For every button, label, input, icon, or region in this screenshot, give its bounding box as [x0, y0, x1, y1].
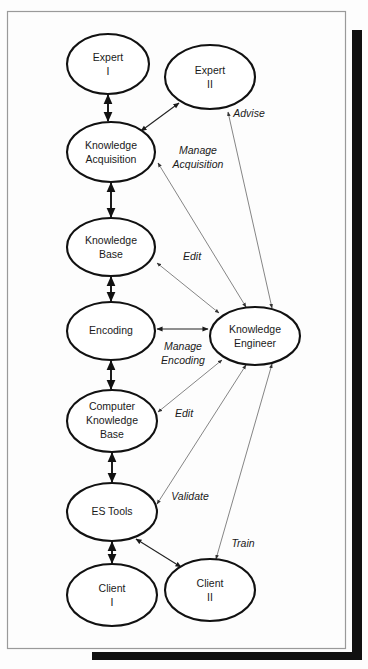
edge-knowledge-engineer-es-tools [157, 365, 246, 504]
figure-page: Expert I Expert II Knowledge Acquisition… [0, 0, 368, 669]
edge-knowledge-engineer-knowledge-acquisition [158, 163, 246, 307]
edge-label-manage-encoding-line2: Encoding [161, 354, 205, 366]
node-expert-1-label-line1: Expert [93, 51, 123, 63]
node-expert-2-label-line1: Expert [195, 64, 225, 76]
node-computer-knowledge-base-label-line1: Computer [89, 400, 136, 412]
expert-system-knowledge-engineering-diagram: Expert I Expert II Knowledge Acquisition… [0, 0, 368, 669]
node-knowledge-acquisition[interactable]: Knowledge Acquisition [67, 122, 155, 182]
edge-knowledge-engineer-expert2 [228, 112, 272, 308]
node-client-1-label-line2: I [111, 596, 114, 608]
node-knowledge-base[interactable]: Knowledge Base [67, 218, 155, 276]
node-computer-knowledge-base-label-line2: Knowledge [86, 414, 138, 426]
node-client-1-label-line1: Client [99, 582, 126, 594]
node-knowledge-engineer[interactable]: Knowledge Engineer [210, 307, 300, 365]
edge-label-validate: Validate [171, 490, 209, 502]
edge-knowledge-engineer-client2 [216, 364, 272, 559]
node-encoding[interactable]: Encoding [67, 302, 155, 360]
node-client-2[interactable]: Client II [165, 559, 255, 621]
node-knowledge-base-label-line2: Base [99, 248, 123, 260]
edge-knowledge-acquisition-expert2 [141, 103, 179, 131]
node-computer-knowledge-base[interactable]: Computer Knowledge Base [67, 390, 157, 452]
node-knowledge-engineer-label-line1: Knowledge [229, 323, 281, 335]
node-expert-2-label-line2: II [207, 78, 213, 90]
frame-shadow-right [352, 30, 362, 660]
node-computer-knowledge-base-label-line3: Base [100, 428, 124, 440]
edge-knowledge-engineer-knowledge-base [157, 263, 219, 313]
node-client-1[interactable]: Client I [67, 564, 157, 626]
node-client-2-label-line1: Client [197, 577, 224, 589]
node-expert-2[interactable]: Expert II [165, 45, 255, 109]
edge-label-manage-acquisition-line1: Manage [179, 144, 217, 156]
edge-label-edit-computer-knowledge-base: Edit [175, 407, 194, 419]
edge-label-train: Train [231, 537, 254, 549]
frame-shadow-bottom [92, 652, 362, 660]
edge-label-manage-acquisition-line2: Acquisition [172, 158, 224, 170]
node-encoding-label-line1: Encoding [89, 324, 133, 336]
node-knowledge-engineer-label-line2: Engineer [234, 337, 277, 349]
edge-label-manage-encoding-line1: Manage [164, 340, 202, 352]
edge-label-edit-knowledge-base: Edit [183, 250, 202, 262]
node-expert-1[interactable]: Expert I [67, 34, 149, 94]
node-expert-1-label-line2: I [107, 65, 110, 77]
node-es-tools[interactable]: ES Tools [67, 483, 157, 541]
edge-knowledge-engineer-computer-knowledge-base [158, 360, 222, 412]
node-knowledge-acquisition-label-line2: Acquisition [86, 153, 137, 165]
node-knowledge-base-label-line1: Knowledge [85, 234, 137, 246]
node-es-tools-label-line1: ES Tools [91, 505, 132, 517]
edge-es-tools-client2 [136, 539, 181, 567]
node-knowledge-acquisition-label-line1: Knowledge [85, 139, 137, 151]
edge-label-advise: Advise [232, 107, 265, 119]
node-client-2-label-line2: II [207, 591, 213, 603]
